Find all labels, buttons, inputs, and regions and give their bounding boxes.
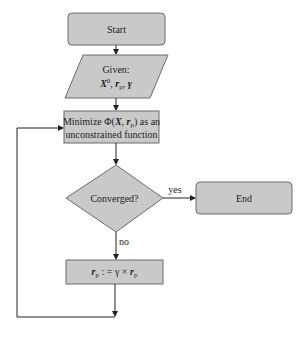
start-node: Start <box>68 13 165 45</box>
given-node: Given: X0, rp, γ <box>65 55 168 98</box>
converged-label: Converged? <box>90 193 139 204</box>
end-node: End <box>196 182 292 214</box>
converged-decision-node: Converged? <box>66 165 163 232</box>
no-label: no <box>119 236 129 247</box>
flowchart: Start Given: X0, rp, γ Minimize Φ(X, rp)… <box>0 0 308 337</box>
given-variables: X0, rp, γ <box>99 77 133 91</box>
update-rp-node: rp : = γ × rp <box>66 260 163 284</box>
yes-label: yes <box>168 184 181 195</box>
minimize-node: Minimize Φ(X, rp) as an unconstrained fu… <box>63 111 160 143</box>
start-label: Start <box>107 24 126 35</box>
end-label: End <box>236 193 252 204</box>
given-label: Given: <box>102 64 129 75</box>
edge-feedback-loop <box>17 128 115 317</box>
minimize-label-line2: unconstrained function <box>66 129 158 140</box>
